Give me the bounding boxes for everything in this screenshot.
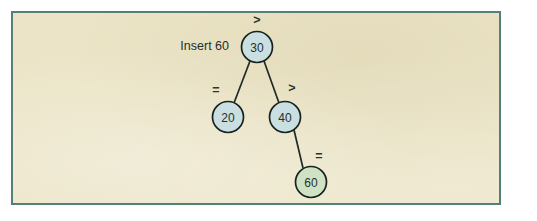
node-label-40: 40 bbox=[278, 111, 292, 125]
tree-node-20[interactable]: 20 bbox=[213, 102, 244, 133]
comparison-label-root: > bbox=[253, 13, 260, 27]
edge-30-to-40 bbox=[264, 61, 279, 103]
edge-40-to-60 bbox=[294, 130, 303, 168]
insert-caption: Insert 60 bbox=[180, 39, 229, 53]
tree-node-60[interactable]: 60 bbox=[296, 167, 327, 198]
screenshot-root: Insert 60 30 20 40 60 > = > bbox=[0, 0, 537, 221]
binary-search-tree-diagram: Insert 60 30 20 40 60 > = > bbox=[0, 0, 537, 221]
comparison-label-right-branch: > bbox=[288, 81, 295, 95]
tree-node-40[interactable]: 40 bbox=[270, 102, 301, 133]
tree-node-30[interactable]: 30 bbox=[242, 32, 273, 63]
node-label-30: 30 bbox=[250, 41, 264, 55]
tree-nodes: 30 20 40 60 bbox=[213, 32, 327, 198]
comparison-label-left-branch: = bbox=[212, 83, 219, 97]
node-label-20: 20 bbox=[221, 111, 235, 125]
edge-30-to-20 bbox=[234, 61, 250, 103]
node-label-60: 60 bbox=[304, 176, 318, 190]
comparison-label-leaf-branch: = bbox=[315, 149, 322, 163]
